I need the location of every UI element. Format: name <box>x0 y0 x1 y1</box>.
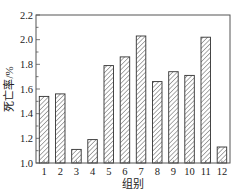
x-tick-label: 2 <box>58 166 63 177</box>
x-tick-label: 11 <box>201 166 211 177</box>
x-tick-label: 1 <box>41 166 46 177</box>
bar-chart: 1.01.21.41.61.82.02.2 123456789101112 组别… <box>0 0 239 193</box>
x-axis-label: 组别 <box>122 177 144 190</box>
chart-canvas: 1.01.21.41.61.82.02.2 123456789101112 组别… <box>0 0 239 193</box>
y-tick-label: 1.0 <box>20 158 33 169</box>
bar-10 <box>185 75 195 163</box>
y-tick-label: 1.8 <box>20 59 33 70</box>
x-tick-label: 8 <box>155 166 160 177</box>
y-tick-label: 2.0 <box>20 34 33 45</box>
x-tick-label: 4 <box>90 166 96 177</box>
y-axis-label: 死亡率/% <box>2 66 15 111</box>
bar-2 <box>56 94 66 163</box>
y-tick-label: 1.4 <box>20 108 34 119</box>
bar-5 <box>104 66 114 163</box>
y-tick-label: 2.2 <box>20 10 33 21</box>
x-tick-label: 10 <box>184 166 195 177</box>
y-axis: 1.01.21.41.61.82.02.2 <box>20 10 40 169</box>
x-tick-label: 6 <box>122 166 127 177</box>
x-tick-label: 12 <box>217 166 228 177</box>
bar-9 <box>169 72 179 163</box>
x-tick-label: 9 <box>171 166 176 177</box>
y-tick-label: 1.2 <box>20 133 33 144</box>
x-tick-label: 7 <box>138 166 143 177</box>
bar-6 <box>120 57 130 163</box>
bars-group <box>39 36 226 163</box>
bar-1 <box>39 96 49 163</box>
bar-11 <box>201 37 211 163</box>
bar-7 <box>136 36 146 163</box>
bar-4 <box>88 140 98 163</box>
x-tick-label: 3 <box>74 166 79 177</box>
x-tick-label: 5 <box>106 166 111 177</box>
bar-8 <box>153 82 163 163</box>
y-tick-label: 1.6 <box>20 84 33 95</box>
